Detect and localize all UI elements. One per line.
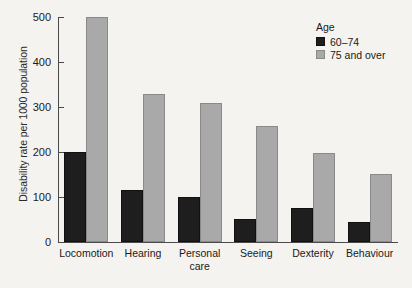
legend-entries: 60–7475 and over [316, 35, 408, 61]
y-tick-label: 100 [33, 191, 51, 203]
legend-label: 60–74 [330, 36, 359, 48]
disability-rate-bar-chart: Disability rate per 1000 population 0100… [0, 0, 412, 288]
legend-item: 60–74 [316, 35, 408, 48]
x-axis-label: Locomotion [59, 247, 113, 260]
bar [200, 103, 222, 243]
y-axis-line [58, 17, 59, 243]
bar [256, 126, 278, 242]
legend-label: 75 and over [330, 49, 385, 61]
legend-swatch-icon [316, 50, 325, 59]
y-tick-label: 500 [33, 11, 51, 23]
y-axis-title: Disability rate per 1000 population [14, 2, 32, 246]
bar [178, 197, 200, 242]
bar [86, 17, 108, 242]
y-tick-mark [59, 152, 64, 153]
x-axis-label: Seeing [240, 247, 273, 260]
y-tick-label: 200 [33, 146, 51, 158]
y-tick-label: 400 [33, 56, 51, 68]
y-tick-label: 0 [45, 236, 51, 248]
x-axis-label: Dexterity [292, 247, 333, 260]
bar [234, 219, 256, 242]
bar [143, 94, 165, 243]
y-tick-mark [59, 17, 64, 18]
legend-item: 75 and over [316, 48, 408, 61]
x-axis-line [58, 242, 398, 243]
y-tick-mark [59, 197, 64, 198]
x-axis-label: Behaviour [346, 247, 393, 260]
bar [121, 190, 143, 242]
bar [64, 152, 86, 242]
y-tick-mark [59, 242, 64, 243]
legend-title: Age [316, 21, 408, 33]
bar [313, 153, 335, 242]
legend: Age 60–7475 and over [316, 21, 408, 61]
x-axis-label: Personal care [179, 247, 220, 272]
y-tick-label: 300 [33, 101, 51, 113]
legend-swatch-icon [316, 37, 325, 46]
bar [348, 222, 370, 242]
y-tick-mark [59, 62, 64, 63]
bar [370, 174, 392, 242]
y-tick-mark [59, 107, 64, 108]
bar [291, 208, 313, 242]
x-axis-label: Hearing [125, 247, 162, 260]
